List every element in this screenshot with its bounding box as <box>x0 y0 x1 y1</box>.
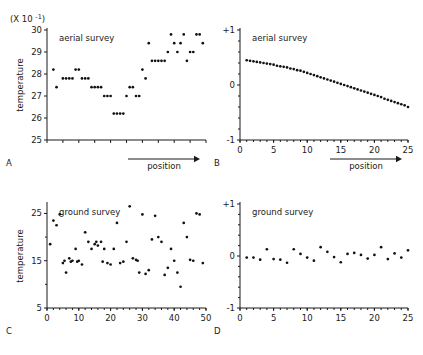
position-arrow-head <box>194 156 200 162</box>
data-point <box>68 257 71 260</box>
data-point <box>77 259 80 262</box>
data-point <box>198 33 201 36</box>
x-tick-label: 20 <box>105 313 116 323</box>
data-point <box>289 67 292 70</box>
data-point <box>373 94 376 97</box>
data-point <box>147 269 150 272</box>
data-point <box>62 262 65 265</box>
data-point <box>286 66 289 69</box>
data-point <box>154 59 157 62</box>
data-point <box>313 74 316 77</box>
data-point <box>400 103 403 106</box>
data-point <box>366 257 369 260</box>
data-point <box>299 253 302 256</box>
data-point <box>249 59 252 62</box>
panel-b: -10+10510152025aerial surveyBposition <box>208 0 423 180</box>
data-point <box>262 62 265 65</box>
data-point <box>135 95 138 98</box>
data-point <box>163 274 166 277</box>
data-point <box>151 59 154 62</box>
data-point <box>182 33 185 36</box>
data-point <box>407 249 410 252</box>
data-point <box>286 261 289 264</box>
x-axis-title: position <box>349 161 383 171</box>
x-tick-label: 10 <box>302 313 313 323</box>
x-tick-label: 0 <box>237 145 242 155</box>
data-point <box>74 68 77 71</box>
series-label: aerial survey <box>59 33 114 43</box>
data-point <box>302 70 305 73</box>
data-point <box>390 100 393 103</box>
data-point <box>128 205 131 208</box>
data-point <box>259 258 262 261</box>
data-point <box>326 78 329 81</box>
axis-lines <box>47 202 206 308</box>
series-label: ground survey <box>252 207 313 217</box>
data-point <box>170 33 173 36</box>
y-axis-multiplier-label: (X 10 -1) <box>10 13 45 25</box>
data-point <box>252 256 255 259</box>
series-label: ground survey <box>59 207 120 217</box>
y-axis-title: temperature <box>15 58 25 111</box>
data-point <box>186 59 189 62</box>
data-point <box>276 64 279 67</box>
data-point <box>84 231 87 234</box>
data-point <box>353 252 356 255</box>
data-point <box>192 259 195 262</box>
x-tick-label: 20 <box>369 313 380 323</box>
data-point <box>397 102 400 105</box>
data-point <box>160 240 163 243</box>
x-tick-label: 40 <box>169 313 180 323</box>
x-tick-label: 15 <box>335 145 346 155</box>
axis-lines <box>47 28 206 140</box>
data-point <box>52 68 55 71</box>
data-point <box>106 262 109 265</box>
data-point <box>103 248 106 251</box>
x-tick-label: 5 <box>271 145 276 155</box>
data-point <box>125 240 128 243</box>
data-point <box>65 77 68 80</box>
data-point <box>103 95 106 98</box>
x-tick-label: 15 <box>335 313 346 323</box>
data-points <box>245 246 409 264</box>
data-point <box>157 59 160 62</box>
data-point <box>55 224 58 227</box>
data-point <box>259 61 262 64</box>
data-point <box>326 250 329 253</box>
data-point <box>336 81 339 84</box>
y-axis-title: temperature <box>15 229 25 282</box>
data-point <box>95 240 98 243</box>
data-point <box>132 86 135 89</box>
x-tick-label: 30 <box>137 313 148 323</box>
panel-letter: D <box>214 326 221 336</box>
data-point <box>333 80 336 83</box>
data-point <box>87 240 90 243</box>
data-point <box>192 51 195 54</box>
data-point <box>170 248 173 251</box>
data-point <box>272 63 275 66</box>
data-point <box>292 68 295 71</box>
data-point <box>52 219 55 222</box>
data-point <box>356 88 359 91</box>
data-point <box>195 33 198 36</box>
data-point <box>189 258 192 261</box>
data-point <box>109 95 112 98</box>
data-point <box>166 266 169 269</box>
data-point <box>97 244 100 247</box>
data-point <box>109 263 112 266</box>
data-point <box>116 112 119 115</box>
panel-letter: C <box>6 326 12 336</box>
data-point <box>366 91 369 94</box>
data-point <box>93 86 96 89</box>
axis-lines <box>240 202 408 308</box>
data-point <box>112 112 115 115</box>
data-point <box>380 96 383 99</box>
data-point <box>272 258 275 261</box>
data-point <box>116 222 119 225</box>
series-label: aerial survey <box>252 33 307 43</box>
data-point <box>360 89 363 92</box>
data-point <box>125 95 128 98</box>
panel-d: -10+10510152025ground surveyD <box>208 176 423 355</box>
data-point <box>373 254 376 257</box>
data-point <box>63 259 66 262</box>
